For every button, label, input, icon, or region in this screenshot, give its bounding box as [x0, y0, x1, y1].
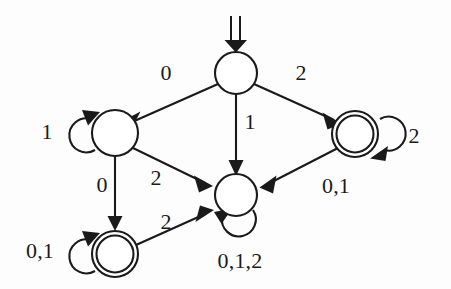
start-arrow-icon — [225, 16, 248, 53]
transition-start-to-center — [229, 94, 244, 176]
self-loop-label-bottomleft-state: 0,1 — [26, 240, 54, 262]
transition-label-left-to-center: 2 — [150, 167, 161, 189]
transition-label-left-to-bottomleft: 0 — [96, 174, 107, 196]
transition-label-start-to-left: 0 — [160, 62, 171, 84]
state-bottom-accepting-state[interactable] — [92, 231, 138, 277]
state-left-state[interactable] — [92, 110, 138, 156]
transition-start-to-right — [254, 84, 342, 130]
transition-bottomleft-to-center — [136, 206, 214, 246]
self-loop-label-right-state: 2 — [408, 125, 419, 147]
transition-left-to-bottomleft — [108, 156, 123, 231]
transition-label-right-to-center: 0,1 — [322, 175, 350, 197]
self-loop-label-center-state: 0,1,2 — [218, 250, 263, 272]
self-loop-label-left-state: 1 — [41, 121, 52, 143]
state-start-state[interactable] — [215, 52, 257, 94]
transition-label-bottomleft-to-center: 2 — [160, 211, 171, 233]
state-right-accepting-state[interactable] — [332, 111, 378, 157]
transition-left-to-center — [133, 148, 213, 193]
automaton-graphics — [0, 0, 451, 289]
automaton-diagram: 0 2 1 1 0 2 2 0,1 0,1 2 0,1,2 — [0, 0, 451, 289]
state-center-sink-state[interactable] — [215, 174, 257, 216]
transition-label-start-to-right: 2 — [295, 62, 306, 84]
transition-start-to-left — [127, 84, 218, 129]
transition-label-start-to-center: 1 — [244, 111, 255, 133]
